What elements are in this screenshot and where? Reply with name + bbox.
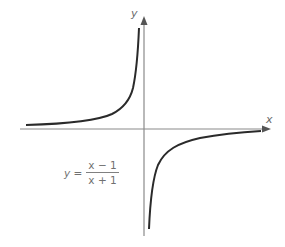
equation-numerator: x − 1 [86,159,118,173]
curve-lower-right-branch [149,131,261,229]
curve-upper-left-branch [26,28,139,125]
equation-lhs: y = [64,167,82,179]
equation-label: y = x − 1 x + 1 [64,159,119,186]
graph-canvas [0,0,285,247]
x-axis [20,126,271,133]
y-axis-arrow-icon [141,16,148,25]
y-axis [141,16,148,236]
equation-fraction: x − 1 x + 1 [86,159,118,186]
x-axis-arrow-icon [262,126,271,133]
y-axis-label: y [131,8,138,19]
equation-denominator: x + 1 [86,173,118,186]
x-axis-label: x [266,114,273,125]
